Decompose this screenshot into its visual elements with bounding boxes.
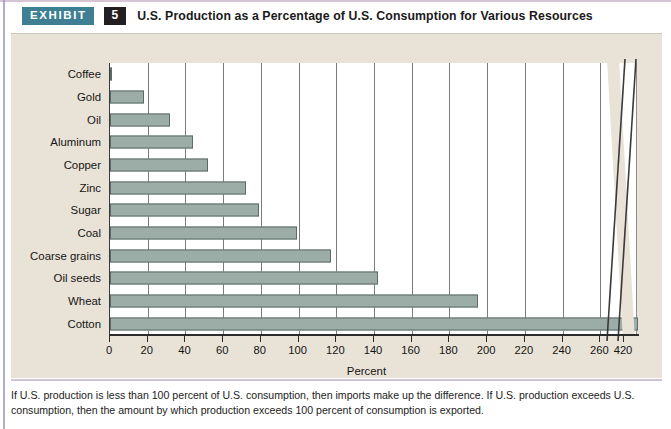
bar xyxy=(110,136,193,149)
x-axis-tick xyxy=(599,335,600,342)
footnote: If U.S. production is less than 100 perc… xyxy=(11,388,659,418)
x-axis-tick xyxy=(448,335,449,342)
bar xyxy=(110,204,259,217)
x-axis-tick xyxy=(260,335,261,342)
exhibit-header: EXHIBIT 5 U.S. Production as a Percentag… xyxy=(22,5,662,27)
y-axis-label: Sugar xyxy=(71,204,101,216)
bar xyxy=(110,295,478,308)
exhibit-title: U.S. Production as a Percentage of U.S. … xyxy=(137,9,593,23)
gridline xyxy=(487,63,488,335)
x-axis-tick xyxy=(562,335,563,342)
x-axis-tick xyxy=(147,335,148,342)
x-axis-tick-label: 200 xyxy=(477,344,496,356)
x-axis-tick xyxy=(184,335,185,342)
top-edge-stripe xyxy=(0,0,671,2)
gridline xyxy=(600,63,601,335)
y-axis-label: Coal xyxy=(78,227,101,239)
bar xyxy=(110,249,331,262)
footnote-line-2: then the amount by which production exce… xyxy=(77,404,484,416)
y-axis-label: Oil xyxy=(87,114,101,126)
x-axis-tick-label: 60 xyxy=(216,344,228,356)
x-axis-tick-label: 260 xyxy=(590,344,609,356)
bar xyxy=(110,91,144,104)
bar xyxy=(110,159,208,172)
x-axis-tick-label: 120 xyxy=(326,344,345,356)
x-axis-tick xyxy=(524,335,525,342)
x-axis-tick-label: 140 xyxy=(364,344,383,356)
left-edge-stripe xyxy=(3,0,5,429)
bar xyxy=(110,113,170,126)
y-axis-label: Zinc xyxy=(79,182,101,194)
plot-outer xyxy=(109,63,637,335)
exhibit-tag: EXHIBIT xyxy=(22,7,94,25)
y-axis-label: Aluminum xyxy=(50,136,101,148)
y-axis-label: Wheat xyxy=(68,295,101,307)
figure-panel: CoffeeGoldOilAluminumCopperZincSugarCoal… xyxy=(11,33,662,378)
x-axis-tick-label: 100 xyxy=(288,344,307,356)
y-axis-label: Coarse grains xyxy=(30,250,101,262)
x-axis-tick-label: 80 xyxy=(254,344,266,356)
bar xyxy=(110,68,112,81)
x-axis-tick xyxy=(411,335,412,342)
x-axis-tick-label: 180 xyxy=(439,344,458,356)
y-axis-category-labels: CoffeeGoldOilAluminumCopperZincSugarCoal… xyxy=(11,63,107,335)
x-axis-tick xyxy=(222,335,223,342)
bar xyxy=(110,272,378,285)
x-axis-tick-label: 240 xyxy=(552,344,571,356)
bar xyxy=(110,317,638,330)
x-axis-tick xyxy=(335,335,336,342)
x-axis-tick xyxy=(298,335,299,342)
x-axis-title: Percent xyxy=(11,365,662,377)
x-axis-tick-label: 40 xyxy=(178,344,190,356)
plot-area xyxy=(109,63,637,335)
x-axis-tick xyxy=(109,335,110,342)
x-axis-tick-label: 160 xyxy=(401,344,420,356)
gridline xyxy=(563,63,564,335)
y-axis-label: Cotton xyxy=(67,318,101,330)
x-axis-ticks xyxy=(109,335,637,344)
y-axis-label: Coffee xyxy=(68,68,101,80)
x-axis-tick-label: 220 xyxy=(515,344,534,356)
exhibit-number-badge: 5 xyxy=(104,7,127,25)
x-axis-tick-labels: 020406080100120140160180200220240260420 xyxy=(109,344,669,360)
gridline xyxy=(525,63,526,335)
x-axis-tick xyxy=(623,335,624,342)
bar xyxy=(110,181,246,194)
footnote-divider xyxy=(11,379,662,381)
x-axis-tick-label: 0 xyxy=(106,344,112,356)
x-axis-tick-label: 20 xyxy=(140,344,152,356)
x-axis-tick xyxy=(486,335,487,342)
y-axis-label: Oil seeds xyxy=(54,272,101,284)
y-axis-label: Gold xyxy=(77,91,101,103)
x-axis-tick-label: 420 xyxy=(614,344,633,356)
y-axis-label: Copper xyxy=(64,159,101,171)
x-axis-tick xyxy=(373,335,374,342)
bar xyxy=(110,227,297,240)
